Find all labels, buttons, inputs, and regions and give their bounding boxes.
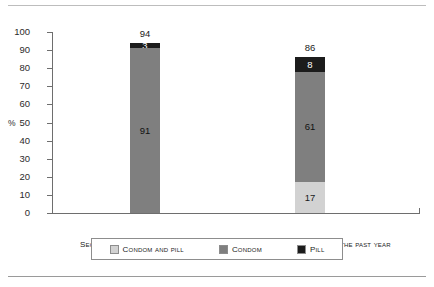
y-axis-tick-label: 40	[0, 136, 30, 146]
y-axis-tick	[47, 86, 52, 87]
stacked-bar-chart-figure: 0102030405060708090100 % 391948611786 Se…	[0, 10, 434, 268]
y-axis-tick	[47, 159, 52, 160]
bar-segment: 91	[130, 48, 160, 213]
y-axis-tick	[47, 123, 52, 124]
legend-swatch-condom	[219, 245, 228, 254]
bottom-divider-rule	[8, 276, 426, 277]
y-axis-tick-label: 10	[0, 190, 30, 200]
legend-item: Pill	[297, 245, 324, 254]
y-axis-tick	[47, 104, 52, 105]
y-axis-tick-label: 20	[0, 172, 30, 182]
x-axis-line	[52, 213, 420, 214]
legend-label-condom-and-pill: Condom and pill	[123, 245, 184, 254]
y-axis-line	[52, 32, 53, 214]
bar-stack: 39194	[130, 43, 160, 213]
y-axis-unit-label: %	[8, 118, 22, 128]
y-axis-tick	[47, 195, 52, 196]
bar-segment: 8	[295, 57, 325, 71]
y-axis-tick-label: 30	[0, 154, 30, 164]
y-axis-tick-label: 80	[0, 63, 30, 73]
y-axis-tick	[47, 32, 52, 33]
bar-total-label: 86	[280, 42, 340, 53]
legend-item: Condom and pill	[110, 245, 184, 254]
bar-segment: 61	[295, 72, 325, 182]
y-axis-tick-label: 60	[0, 99, 30, 109]
x-axis-end-tick	[419, 208, 420, 214]
y-axis-tick	[47, 141, 52, 142]
bar-stack: 8611786	[295, 57, 325, 213]
chart-legend: Condom and pill Condom Pill	[91, 238, 343, 260]
bar-total-label: 94	[115, 28, 175, 39]
y-axis-tick	[47, 177, 52, 178]
plot-area: 0102030405060708090100 % 391948611786 Se…	[52, 32, 420, 214]
y-axis-tick-label: 100	[0, 27, 30, 37]
y-axis-tick	[47, 68, 52, 69]
legend-swatch-condom-and-pill	[110, 245, 119, 254]
y-axis-tick	[47, 213, 52, 214]
bar-segment: 17	[295, 182, 325, 213]
y-axis-tick	[47, 50, 52, 51]
legend-item: Condom	[219, 245, 262, 254]
y-axis-tick-label: 70	[0, 81, 30, 91]
legend-label-condom: Condom	[232, 245, 262, 254]
y-axis-tick-label: 90	[0, 45, 30, 55]
legend-label-pill: Pill	[310, 245, 324, 254]
y-axis-tick-label: 0	[0, 208, 30, 218]
legend-swatch-pill	[297, 245, 306, 254]
top-divider-rule	[8, 5, 426, 6]
